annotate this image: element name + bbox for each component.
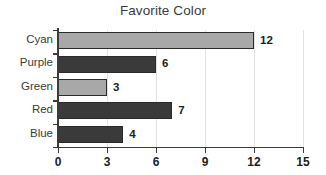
bar-red — [58, 102, 172, 119]
x-axis-tick — [254, 148, 255, 153]
bar-row: 6 — [58, 53, 303, 76]
x-axis-label-9: 9 — [190, 155, 220, 169]
bar-chart: Favorite Color 126374 CyanPurpleGreenRed… — [0, 0, 326, 175]
category-label-blue: Blue — [1, 127, 53, 139]
x-axis-tick — [107, 148, 108, 153]
chart-title: Favorite Color — [0, 3, 326, 18]
y-axis-tick — [53, 30, 58, 31]
category-label-purple: Purple — [1, 56, 53, 68]
bar-row: 4 — [58, 124, 303, 147]
bar-value-cyan: 12 — [260, 32, 273, 49]
x-axis-tick — [303, 148, 304, 153]
bar-row: 3 — [58, 77, 303, 100]
category-label-cyan: Cyan — [1, 33, 53, 45]
x-axis-label-12: 12 — [239, 155, 269, 169]
y-axis-tick — [53, 124, 58, 125]
x-axis-label-3: 3 — [92, 155, 122, 169]
bar-value-green: 3 — [113, 79, 119, 96]
category-label-red: Red — [1, 103, 53, 115]
bar-green — [58, 79, 107, 96]
x-axis-tick — [58, 148, 59, 153]
bar-value-red: 7 — [178, 102, 184, 119]
bar-blue — [58, 126, 123, 143]
y-axis-tick — [53, 77, 58, 78]
x-axis-line — [57, 147, 304, 149]
y-axis-line — [57, 28, 59, 148]
bar-cyan — [58, 32, 254, 49]
x-axis-tick — [156, 148, 157, 153]
bar-purple — [58, 56, 156, 73]
y-axis-tick — [53, 100, 58, 101]
x-axis-label-15: 15 — [288, 155, 318, 169]
y-axis-tick — [53, 53, 58, 54]
x-axis-label-6: 6 — [141, 155, 171, 169]
plot-area: 126374 — [58, 30, 303, 147]
x-axis-tick — [205, 148, 206, 153]
bar-row: 7 — [58, 100, 303, 123]
gridline — [303, 30, 304, 147]
x-axis-label-0: 0 — [43, 155, 73, 169]
bar-value-purple: 6 — [162, 55, 168, 72]
category-label-green: Green — [1, 80, 53, 92]
bar-value-blue: 4 — [129, 126, 135, 143]
y-axis-labels: CyanPurpleGreenRedBlue — [0, 30, 53, 147]
bar-row: 12 — [58, 30, 303, 53]
